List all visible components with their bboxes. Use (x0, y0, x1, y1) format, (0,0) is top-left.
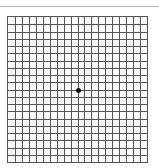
center-fixation-dot (76, 88, 81, 93)
amsler-grid (7, 16, 148, 163)
top-rule-divider (0, 6, 159, 7)
